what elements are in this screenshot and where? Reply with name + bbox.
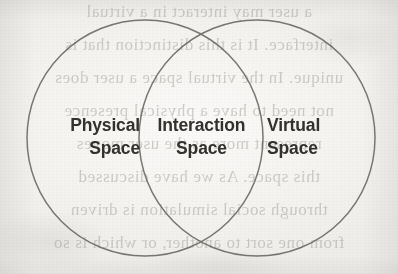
paper-edge-shading xyxy=(0,0,398,274)
scanned-figure-page: a user may interact in a virtual interfa… xyxy=(0,0,398,274)
